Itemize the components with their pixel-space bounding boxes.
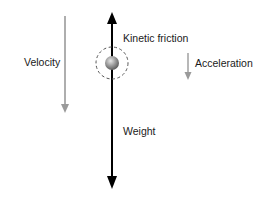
ball-icon (105, 56, 119, 70)
kinetic-friction-arrow (107, 12, 117, 63)
weight-label: Weight (123, 126, 156, 137)
velocity-label: Velocity (24, 57, 60, 68)
kinetic-friction-label: Kinetic friction (123, 33, 188, 44)
free-body-diagram: Kinetic friction Velocity Acceleration W… (0, 0, 262, 197)
weight-arrow (107, 63, 117, 189)
acceleration-arrow (185, 53, 192, 80)
diagram-canvas (0, 0, 262, 197)
velocity-arrow (61, 16, 69, 113)
acceleration-label: Acceleration (195, 58, 253, 69)
